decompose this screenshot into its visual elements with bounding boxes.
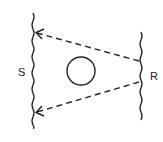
diagram: S R — [0, 0, 163, 142]
label-r: R — [150, 71, 158, 82]
right-wavy-boundary — [140, 32, 142, 120]
left-wavy-boundary — [32, 13, 34, 128]
circle-obstacle — [67, 57, 95, 85]
label-s: S — [18, 67, 25, 78]
lower-dashed-path — [37, 82, 139, 112]
upper-dashed-path — [37, 33, 139, 61]
